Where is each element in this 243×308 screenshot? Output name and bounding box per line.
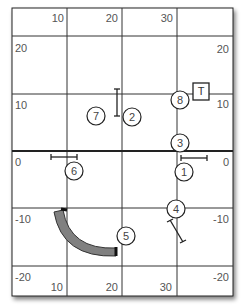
- x-label-bottom-30: 30: [160, 281, 172, 293]
- y-label-left-minus20: -20: [15, 271, 31, 283]
- x-label-bottom-10: 10: [51, 281, 63, 293]
- marker-4[interactable]: 4: [167, 200, 185, 218]
- marker-label: 8: [177, 94, 183, 106]
- y-label-right-10: 10: [217, 98, 229, 110]
- marker-6[interactable]: 6: [65, 162, 83, 180]
- marker-3[interactable]: 3: [171, 134, 189, 152]
- marker-1[interactable]: 1: [175, 163, 193, 181]
- marker-label: 5: [123, 230, 129, 242]
- x-label-top-20: 20: [106, 12, 118, 24]
- marker-2[interactable]: 2: [123, 108, 141, 126]
- y-label-left-20: 20: [15, 42, 27, 54]
- x-label-top-30: 30: [161, 12, 173, 24]
- marker-7[interactable]: 7: [87, 107, 105, 125]
- x-label-top-10: 10: [52, 12, 64, 24]
- marker-label: 2: [129, 111, 135, 123]
- table-obstacle[interactable]: T: [193, 83, 209, 100]
- course-diagram: 10 20 30 10 20 30 20 10 0 -10 -20 20 10 …: [0, 0, 243, 308]
- marker-label: 3: [177, 137, 183, 149]
- tunnel-entry: [61, 209, 67, 210]
- table-label: T: [198, 85, 205, 97]
- marker-8[interactable]: 8: [171, 91, 189, 109]
- marker-label: 1: [181, 166, 187, 178]
- x-label-bottom-20: 20: [106, 281, 118, 293]
- y-label-right-20: 20: [217, 43, 229, 55]
- y-label-right-minus20: -20: [213, 271, 229, 283]
- marker-label: 4: [173, 203, 179, 215]
- y-label-left-10: 10: [15, 99, 27, 111]
- marker-5[interactable]: 5: [117, 227, 135, 245]
- y-label-left-minus10: -10: [15, 213, 31, 225]
- marker-label: 7: [93, 110, 99, 122]
- y-label-left-0: 0: [15, 156, 21, 168]
- y-label-right-minus10: -10: [213, 213, 229, 225]
- y-label-right-0: 0: [223, 156, 229, 168]
- marker-label: 6: [71, 165, 77, 177]
